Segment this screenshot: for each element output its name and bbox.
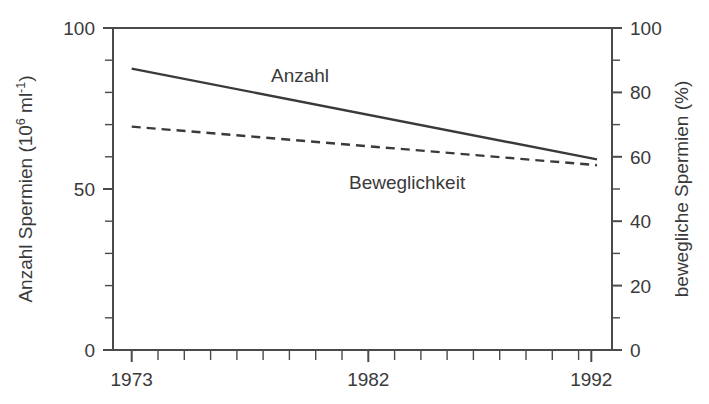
tick-label-right-80: 80 (630, 82, 651, 103)
tick-label-left-100: 100 (63, 18, 95, 39)
axis-left-title: Anzahl Spermien (106 ml-1) (14, 75, 36, 302)
axis-x-ticks (132, 350, 592, 362)
axis-left-title-sup-minus1: -1 (14, 82, 28, 93)
axis-x-tick-labels: 1973 1982 1992 (111, 369, 613, 390)
chart-canvas: 100 50 0 100 80 60 40 20 0 (0, 0, 709, 404)
axis-left-ticks (103, 28, 113, 350)
series-label-anzahl: Anzahl (271, 65, 329, 86)
tick-label-right-40: 40 (630, 211, 651, 232)
tick-label-left-0: 0 (84, 340, 95, 361)
axis-right-ticks (612, 28, 622, 350)
axis-left-tick-labels: 100 50 0 (63, 18, 95, 361)
axis-left-title-main: Anzahl Spermien (10 (15, 125, 36, 302)
tick-label-right-60: 60 (630, 147, 651, 168)
tick-label-right-100: 100 (630, 18, 662, 39)
axis-right-tick-labels: 100 80 60 40 20 0 (630, 18, 662, 361)
axis-right-title-text: bewegliche Spermien (%) (671, 81, 692, 298)
axis-left-title-mid: ml (15, 93, 36, 118)
axis-left-title-sup-6: 6 (14, 118, 28, 125)
chart-figure: 100 50 0 100 80 60 40 20 0 (0, 0, 709, 404)
series-label-beweglichkeit: Beweglichkeit (349, 172, 466, 193)
tick-label-x-1982: 1982 (347, 369, 389, 390)
axis-left-title-end: ) (15, 75, 36, 81)
axis-right-title: bewegliche Spermien (%) (671, 81, 692, 298)
tick-label-right-0: 0 (630, 340, 641, 361)
plot-series (132, 69, 597, 166)
tick-label-right-20: 20 (630, 276, 651, 297)
tick-label-x-1992: 1992 (570, 369, 612, 390)
tick-label-x-1973: 1973 (111, 369, 153, 390)
svg-text:Anzahl Spermien (106 ml-1): Anzahl Spermien (106 ml-1) (14, 75, 36, 302)
tick-label-left-50: 50 (74, 179, 95, 200)
